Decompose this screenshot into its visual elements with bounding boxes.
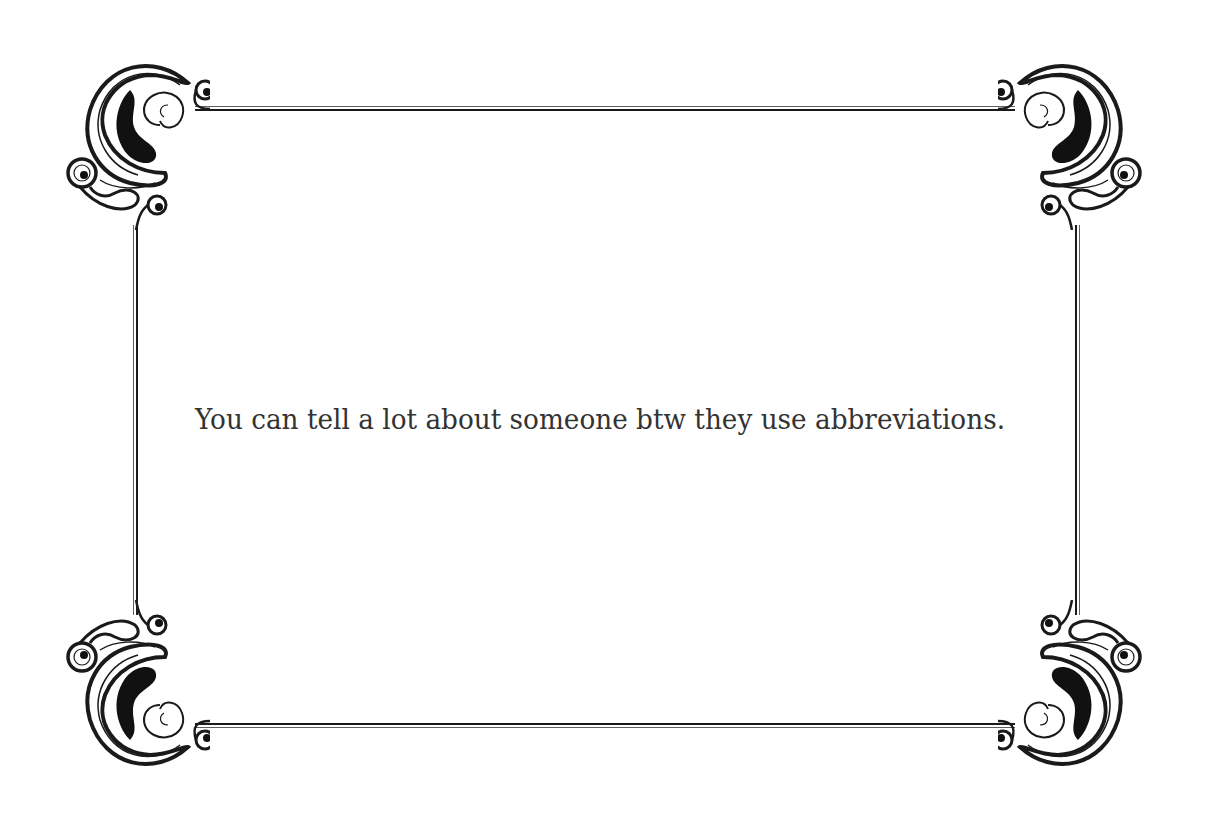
quote-text: You can tell a lot about someone btw the… xyxy=(194,404,1005,435)
quote-container: You can tell a lot about someone btw the… xyxy=(0,0,1208,815)
